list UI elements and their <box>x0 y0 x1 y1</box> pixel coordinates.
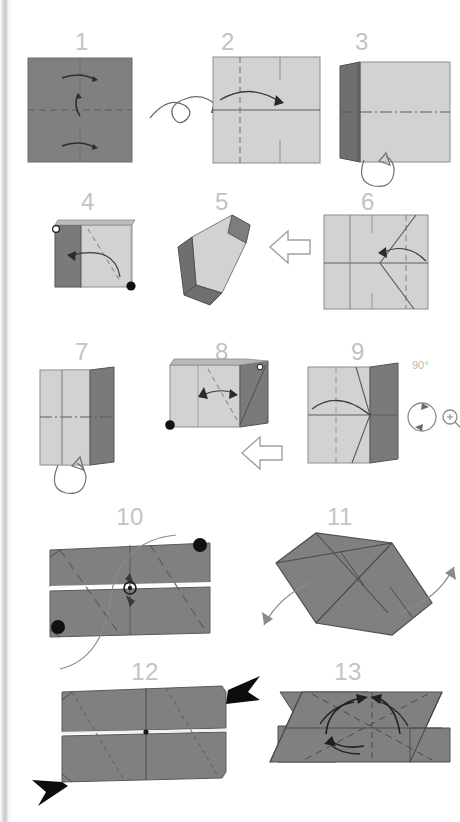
paper-light-square <box>324 215 428 309</box>
step-4-figure <box>0 185 190 315</box>
step-12-figure <box>0 650 260 822</box>
step-9-figure <box>290 335 460 490</box>
paper-dark-parallelogram <box>276 533 432 635</box>
center-marker-dot <box>143 729 148 734</box>
solid-black-arrowhead-top-right <box>226 676 260 704</box>
pivot-dot <box>128 586 132 590</box>
rotate-angle-label: 90° <box>412 360 452 371</box>
paper-dark-right <box>90 367 114 465</box>
filled-circle-marker <box>126 281 135 290</box>
paper-dark-right-tab <box>410 728 450 762</box>
filled-circle-marker-bottom <box>51 620 65 634</box>
step-5-figure <box>170 185 320 315</box>
solid-black-arrowhead-bottom-left <box>32 780 68 806</box>
open-circle-marker <box>53 226 60 233</box>
step-11-figure <box>240 495 460 655</box>
filled-circle-marker-top <box>193 538 207 552</box>
paper-dark-upper <box>62 686 226 732</box>
step-3-figure <box>300 0 460 195</box>
rotate-symbol <box>408 403 436 431</box>
open-outline-arrow <box>242 437 282 469</box>
step-6-figure <box>310 185 460 315</box>
paper-dark-left <box>55 225 81 287</box>
paper-top-edge <box>55 220 135 225</box>
paper-dark-lower <box>62 732 226 782</box>
paper-dark-right <box>370 363 398 463</box>
origami-instruction-page: 1 2 3 <box>0 0 460 822</box>
open-outline-arrow <box>270 231 310 263</box>
open-circle-marker <box>257 364 263 370</box>
magnify-icon <box>443 410 460 428</box>
filled-circle-marker <box>165 420 175 430</box>
step-2-figure <box>140 0 320 185</box>
step-13-figure <box>260 650 460 822</box>
step-10-figure <box>0 495 250 655</box>
turn-over-arrow <box>150 97 222 123</box>
